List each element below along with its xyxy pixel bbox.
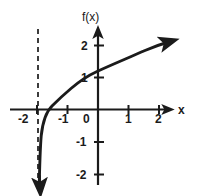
- y-tick-label-neg1: -1: [76, 136, 86, 148]
- y-tick-label-pos2: 2: [81, 40, 87, 52]
- x-tick-label-pos1: 1: [125, 113, 131, 125]
- y-tick-label-pos1: 1: [81, 72, 87, 84]
- curve-down-arrow: [39, 176, 40, 187]
- x-tick-label-zero: 0: [83, 113, 89, 125]
- y-tick-label-neg2: -2: [76, 169, 86, 181]
- x-tick-label-neg1: -1: [58, 113, 68, 125]
- graph-canvas: [0, 0, 199, 196]
- x-tick-label-neg2: -2: [18, 113, 28, 125]
- function-label: f(x): [82, 11, 99, 23]
- x-tick-label-pos2: 2: [155, 113, 161, 125]
- x-axis-label: x: [178, 104, 185, 116]
- function-graph-figure: f(x) x -2 -1 0 1 2 2 1 -1 -2: [0, 0, 199, 196]
